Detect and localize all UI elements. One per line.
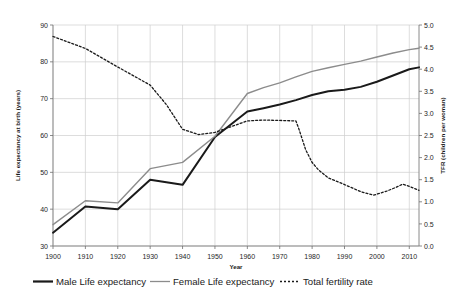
y-tick-label-left: 90 (40, 22, 48, 29)
x-tick-label: 1900 (45, 253, 61, 260)
y-tick-label-left: 50 (40, 169, 48, 176)
series-line (53, 48, 419, 224)
x-tick-label: 2010 (401, 253, 417, 260)
x-tick-label: 1940 (175, 253, 191, 260)
line-chart: 304050607080900.00.51.01.52.02.53.03.54.… (0, 0, 461, 303)
y-tick-label-right: 0.5 (424, 221, 434, 228)
y-tick-label-right: 3.0 (424, 110, 434, 117)
x-tick-label: 1980 (304, 253, 320, 260)
y-tick-label-right: 4.0 (424, 66, 434, 73)
legend-item: Male Life expectancy (33, 276, 146, 287)
y-tick-label-left: 40 (40, 206, 48, 213)
y-tick-label-left: 70 (40, 95, 48, 102)
y-tick-label-left: 80 (40, 58, 48, 65)
tick-marks (50, 25, 422, 249)
legend-label: Male Life expectancy (56, 276, 146, 287)
x-tick-label: 1910 (78, 253, 94, 260)
legend-item: Total fertility rate (280, 276, 373, 287)
data-series (53, 36, 419, 232)
legend-label: Female Life expectancy (173, 276, 275, 287)
y-tick-label-right: 4.5 (424, 44, 434, 51)
chart-container: 304050607080900.00.51.01.52.02.53.03.54.… (0, 0, 461, 303)
x-tick-label: 1990 (337, 253, 353, 260)
x-tick-label: 1920 (110, 253, 126, 260)
y-tick-label-right: 2.0 (424, 154, 434, 161)
y-tick-label-right: 3.5 (424, 88, 434, 95)
x-tick-label: 1960 (240, 253, 256, 260)
y-tick-label-right: 1.5 (424, 176, 434, 183)
x-tick-label: 1930 (142, 253, 158, 260)
y-axis-title-left: Life expectancy at birth (years) (14, 90, 21, 181)
y-tick-label-right: 1.0 (424, 198, 434, 205)
series-line (53, 67, 419, 232)
x-tick-label: 1950 (207, 253, 223, 260)
x-tick-label: 1970 (272, 253, 288, 260)
legend-label: Total fertility rate (303, 276, 373, 287)
y-tick-label-left: 60 (40, 132, 48, 139)
y-tick-label-right: 2.5 (424, 132, 434, 139)
legend-item: Female Life expectancy (150, 276, 275, 287)
chart-legend: Male Life expectancyFemale Life expectan… (33, 276, 373, 287)
y-axis-title-right: TFR (children per woman) (439, 97, 446, 173)
x-tick-label: 2000 (369, 253, 385, 260)
y-tick-label-right: 0.0 (424, 243, 434, 250)
y-tick-label-right: 5.0 (424, 22, 434, 29)
y-tick-label-left: 30 (40, 243, 48, 250)
gridlines (53, 25, 419, 246)
x-axis-title: Year (229, 263, 243, 270)
